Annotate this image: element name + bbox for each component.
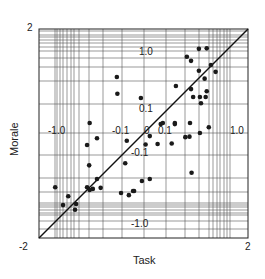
y-max-tick: 2: [27, 23, 33, 33]
data-point: [198, 131, 203, 136]
data-point: [185, 54, 190, 59]
data-point: [189, 170, 194, 175]
inner-y-label-01: 0.1: [139, 104, 153, 114]
y-min-tick: -2: [19, 242, 28, 252]
data-point: [204, 89, 209, 94]
y-axis-title: Morale: [8, 122, 20, 156]
data-point: [53, 185, 58, 190]
data-point: [115, 75, 120, 80]
inner-y-label-neg01: -0.1: [131, 148, 148, 158]
data-point: [85, 143, 90, 148]
data-point: [140, 179, 145, 184]
data-point: [197, 47, 202, 52]
data-point: [174, 84, 179, 89]
data-point: [197, 69, 202, 74]
data-point: [127, 193, 132, 198]
data-point: [213, 70, 218, 75]
x-max-tick: 2: [245, 242, 251, 252]
inner-x-label-zero: 0: [144, 126, 150, 136]
data-point: [155, 142, 160, 147]
scatter-chart: [0, 0, 265, 279]
data-point: [87, 121, 92, 126]
data-point: [173, 121, 178, 126]
data-point: [209, 63, 214, 68]
data-point: [188, 121, 193, 126]
data-point: [187, 134, 192, 139]
data-point: [189, 59, 194, 64]
data-point: [147, 177, 152, 182]
inner-x-label-neg1: -1.0: [48, 126, 65, 136]
data-point: [123, 161, 128, 166]
data-point: [73, 207, 78, 212]
data-point: [189, 87, 194, 92]
inner-x-label-neg01: -0.1: [112, 126, 129, 136]
data-point: [95, 177, 100, 182]
data-point: [203, 95, 208, 100]
x-axis-title: Task: [133, 255, 156, 266]
data-point: [183, 135, 188, 140]
data-point: [66, 194, 71, 199]
data-point: [74, 202, 79, 207]
data-point: [204, 46, 209, 51]
data-point: [131, 189, 136, 194]
data-point: [119, 191, 124, 196]
inner-y-label-1: 1.0: [139, 47, 153, 57]
data-point: [87, 163, 92, 168]
data-point: [198, 95, 203, 100]
data-points: [53, 46, 218, 212]
inner-x-label-01: 0.1: [158, 126, 172, 136]
data-point: [202, 76, 207, 81]
data-point: [169, 141, 174, 146]
data-point: [199, 101, 204, 106]
data-point: [95, 136, 100, 141]
inner-y-label-neg1: -1.0: [131, 219, 148, 229]
inner-x-label-1: 1.0: [230, 126, 244, 136]
data-point: [139, 96, 144, 101]
data-point: [61, 203, 66, 208]
data-point: [207, 125, 212, 130]
data-point: [91, 187, 96, 192]
data-point: [191, 95, 196, 100]
data-point: [98, 186, 103, 191]
data-point: [115, 91, 120, 96]
data-point: [124, 139, 129, 144]
